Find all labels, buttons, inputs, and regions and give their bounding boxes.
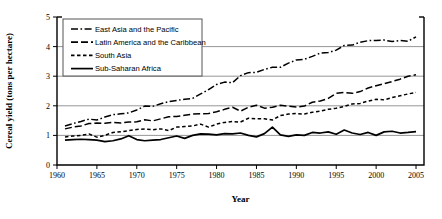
- x-axis-ticks: 1960196519701975198019851990199520002005: [49, 165, 424, 180]
- x-tick-label: 2005: [408, 171, 424, 180]
- legend-label: Latin America and the Caribbean: [95, 38, 206, 47]
- legend-label: South Asia: [95, 51, 132, 60]
- x-tick-label: 1975: [169, 171, 185, 180]
- x-tick-label: 1970: [129, 171, 145, 180]
- legend-label: Sub-Saharan Africa: [95, 64, 162, 73]
- x-tick-label: 1965: [89, 171, 105, 180]
- cereal-yield-line-chart: 1960196519701975198019851990199520002005…: [0, 0, 442, 219]
- y-tick-label: 3: [46, 72, 50, 81]
- x-tick-label: 1985: [248, 171, 264, 180]
- y-tick-label: 5: [46, 13, 50, 22]
- series-line-sub-saharan-africa: [65, 127, 416, 142]
- x-axis-title: Year: [232, 194, 250, 204]
- legend-label: East Asia and the Pacific: [95, 25, 179, 34]
- x-tick-label: 1960: [49, 171, 65, 180]
- y-axis-ticks: 012345: [46, 13, 57, 170]
- y-tick-label: 1: [46, 131, 50, 140]
- chart-legend: East Asia and the PacificLatin America a…: [63, 19, 206, 76]
- y-tick-label: 2: [46, 102, 50, 111]
- x-tick-label: 1990: [288, 171, 304, 180]
- x-tick-label: 1995: [328, 171, 344, 180]
- x-tick-label: 1980: [209, 171, 225, 180]
- chart-figure: 1960196519701975198019851990199520002005…: [0, 0, 442, 219]
- y-axis-title: Cereal yield (tons per hectare): [4, 33, 14, 149]
- x-tick-label: 2000: [368, 171, 384, 180]
- y-tick-label: 0: [46, 161, 50, 170]
- y-tick-label: 4: [46, 43, 50, 52]
